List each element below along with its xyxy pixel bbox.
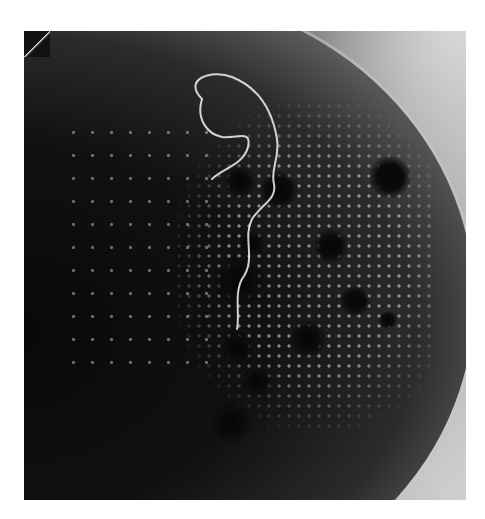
micrograph-image: [24, 31, 466, 500]
dark-spot: [379, 311, 397, 329]
dark-spot: [340, 286, 370, 316]
dark-spot: [369, 156, 411, 198]
dark-spot: [314, 229, 348, 263]
filament-loop: [182, 69, 292, 359]
dark-spot: [290, 321, 326, 357]
dark-spot: [210, 401, 252, 443]
dark-spot: [242, 367, 272, 397]
corner-edge: [24, 31, 50, 57]
